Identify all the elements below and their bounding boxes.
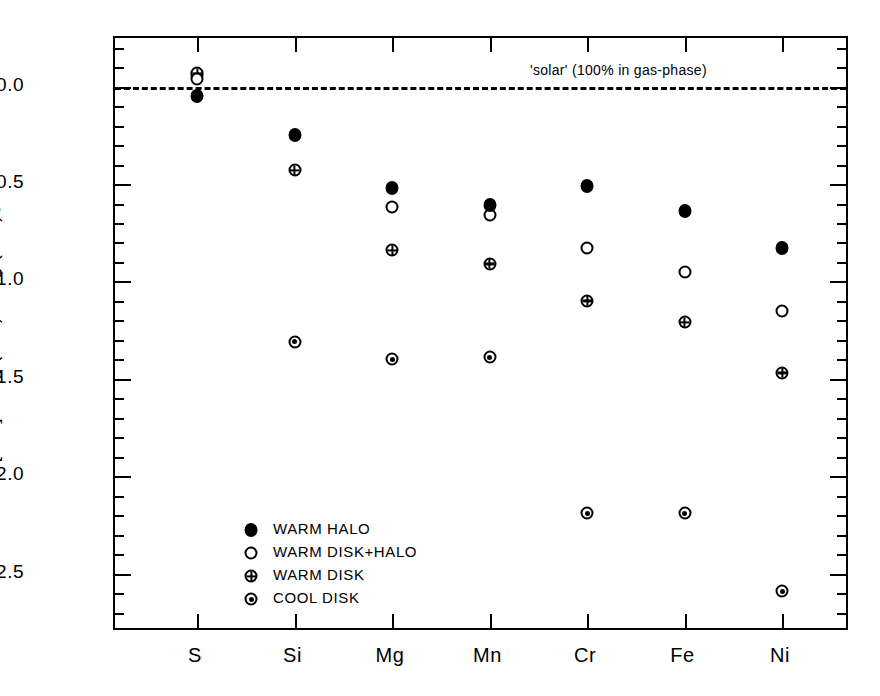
y-tick-right — [837, 301, 846, 303]
y-tick-left — [115, 613, 124, 615]
y-tick-right — [837, 67, 846, 69]
y-tick-right — [837, 126, 846, 128]
y-tick-left — [115, 145, 124, 147]
x-tick-label-fe: Fe — [670, 644, 694, 667]
figure-root: [X/H] = log (X/H) − log (X/H)⊙ 'solar' (… — [0, 0, 880, 696]
data-point — [776, 304, 789, 317]
y-tick-right — [837, 437, 846, 439]
data-point — [581, 294, 594, 307]
data-point — [191, 89, 204, 103]
x-tick-top — [685, 38, 687, 52]
y-axis-title-text: [X/H] = log (X/H) − log (X/H) — [0, 215, 2, 462]
y-tick-left — [115, 593, 124, 595]
y-tick-left — [115, 87, 131, 89]
x-tick-top — [392, 38, 394, 52]
y-tick-label: −2.5 — [0, 561, 24, 583]
y-tick-left — [115, 242, 124, 244]
data-point — [581, 179, 594, 193]
y-tick-right — [837, 593, 846, 595]
y-tick-left — [115, 126, 124, 128]
y-tick-right — [837, 515, 846, 517]
data-point — [483, 198, 496, 212]
y-tick-left — [115, 204, 124, 206]
y-tick-left — [115, 184, 131, 186]
y-tick-right — [837, 535, 846, 537]
x-tick-top — [782, 38, 784, 52]
legend-label: COOL DISK — [273, 589, 360, 606]
solar-reference-label: 'solar' (100% in gas-phase) — [530, 62, 707, 78]
y-tick-left — [115, 496, 124, 498]
y-tick-left — [115, 67, 124, 69]
y-tick-right — [837, 145, 846, 147]
y-tick-left — [115, 301, 124, 303]
y-tick-right — [830, 574, 846, 576]
x-tick-bottom — [685, 614, 687, 628]
data-point — [678, 265, 691, 278]
y-tick-label: 0.0 — [0, 74, 24, 96]
y-tick-left — [115, 515, 124, 517]
y-tick-left — [115, 476, 131, 478]
y-tick-right — [837, 340, 846, 342]
data-point — [678, 316, 691, 329]
data-point — [386, 181, 399, 195]
y-tick-right — [837, 204, 846, 206]
data-point — [288, 128, 301, 142]
y-tick-left — [115, 437, 124, 439]
x-tick-label-cr: Cr — [574, 644, 596, 667]
y-tick-left — [115, 379, 131, 381]
legend-marker-dotted-circle — [245, 593, 258, 606]
y-tick-right — [837, 242, 846, 244]
y-tick-right — [837, 398, 846, 400]
y-tick-left — [115, 398, 124, 400]
y-tick-left — [115, 262, 124, 264]
data-point — [483, 351, 496, 364]
x-tick-label-ni: Ni — [770, 644, 790, 667]
y-tick-left — [115, 281, 131, 283]
y-tick-left — [115, 574, 131, 576]
y-tick-right — [830, 87, 846, 89]
y-tick-right — [830, 379, 846, 381]
data-point — [776, 241, 789, 255]
x-tick-label-si: Si — [283, 644, 302, 667]
x-tick-bottom — [197, 614, 199, 628]
y-tick-label: −1.5 — [0, 366, 24, 388]
legend-label: WARM HALO — [273, 520, 370, 537]
y-tick-left — [115, 320, 124, 322]
y-tick-label: −2.0 — [0, 463, 24, 485]
x-tick-bottom — [782, 614, 784, 628]
data-point — [386, 244, 399, 257]
data-point — [191, 72, 204, 85]
y-tick-left — [115, 223, 124, 225]
data-point — [483, 257, 496, 270]
y-axis-title-subscript: ⊙ — [0, 204, 3, 215]
data-point — [776, 366, 789, 379]
y-tick-right — [837, 359, 846, 361]
y-tick-right — [837, 320, 846, 322]
y-tick-left — [115, 340, 124, 342]
x-tick-top — [295, 38, 297, 52]
data-point — [386, 201, 399, 214]
y-tick-left — [115, 535, 124, 537]
y-tick-right — [837, 262, 846, 264]
data-point — [678, 204, 691, 218]
legend-marker-open-circle — [245, 547, 258, 560]
y-tick-left — [115, 359, 124, 361]
y-tick-left — [115, 165, 124, 167]
x-tick-label-mg: Mg — [376, 644, 405, 667]
y-tick-left — [115, 457, 124, 459]
x-tick-label-s: S — [188, 644, 202, 667]
y-tick-right — [837, 496, 846, 498]
x-tick-bottom — [392, 614, 394, 628]
data-point — [678, 507, 691, 520]
y-tick-right — [837, 106, 846, 108]
y-tick-right — [837, 48, 846, 50]
y-tick-left — [115, 48, 124, 50]
y-tick-left — [115, 418, 124, 420]
y-tick-right — [830, 281, 846, 283]
data-point — [288, 335, 301, 348]
y-tick-right — [830, 184, 846, 186]
x-tick-top — [587, 38, 589, 52]
y-tick-right — [837, 554, 846, 556]
y-tick-left — [115, 106, 124, 108]
data-point — [776, 585, 789, 598]
